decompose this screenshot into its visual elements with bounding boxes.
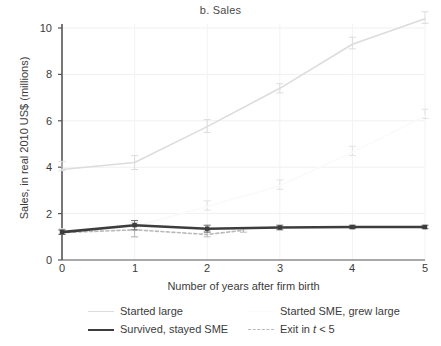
- legend-line-sample-started-large: [88, 306, 114, 316]
- legend-item-survived-stayed-sme[interactable]: Survived, stayed SME: [88, 323, 248, 335]
- legend-item-started-sme-grew-large[interactable]: Started SME, grew large: [248, 305, 400, 317]
- legend-label-survived-stayed-sme: Survived, stayed SME: [120, 323, 228, 335]
- legend-line-sample-survived-stayed-sme: [88, 324, 114, 334]
- legend-item-started-large[interactable]: Started large: [88, 305, 248, 317]
- legend-line-sample-exit-in-t-lt-5: [248, 324, 274, 334]
- plot-area: [0, 0, 441, 346]
- chart-figure: b. Sales Sales, in real 2010 US$ (millio…: [0, 0, 441, 346]
- legend-label-started-large: Started large: [120, 305, 183, 317]
- legend-label-exit-in-t-lt-5: Exit in t < 5: [280, 323, 335, 335]
- legend-line-sample-started-sme-grew-large: [248, 306, 274, 316]
- legend-label-started-sme-grew-large: Started SME, grew large: [280, 305, 400, 317]
- legend-item-exit-in-t-lt-5[interactable]: Exit in t < 5: [248, 323, 335, 335]
- chart-legend: Started large Started SME, grew large Su…: [0, 302, 441, 338]
